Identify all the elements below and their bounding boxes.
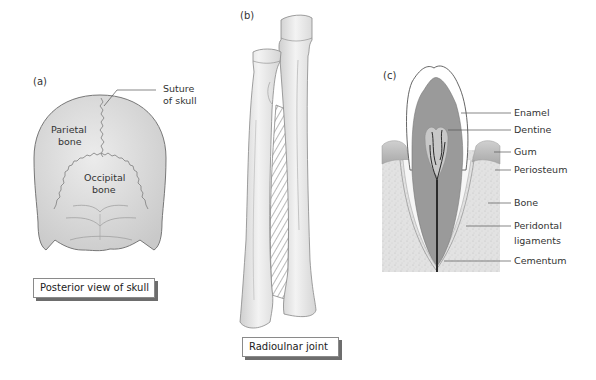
panel-radioulnar: (b) Radioulnar joint [200, 0, 370, 380]
panel-skull: (a) Suture of skull Parietal bone Occipi… [0, 0, 200, 310]
label-dentine: Dentine [514, 124, 551, 135]
label-cementum: Cementum [514, 255, 567, 266]
label-parietal-bone-2: bone [58, 136, 82, 147]
label-suture-of-skull-2: of skull [163, 95, 197, 106]
label-occipital-bone-1: Occipital [84, 172, 125, 183]
label-parietal-bone-1: Parietal [51, 124, 87, 135]
radius-ulna-illustration [200, 0, 370, 380]
label-gum: Gum [514, 146, 537, 157]
caption-posterior-view-of-skull: Posterior view of skull [33, 278, 155, 298]
label-peridontal-ligaments-1: Peridontal [514, 220, 562, 231]
label-enamel: Enamel [514, 107, 550, 118]
skull-illustration [0, 0, 200, 310]
panel-tooth: (c) [370, 0, 596, 300]
label-suture-of-skull-1: Suture [163, 83, 194, 94]
label-occipital-bone-2: bone [92, 184, 116, 195]
label-bone: Bone [514, 197, 538, 208]
caption-radioulnar-joint: Radioulnar joint [242, 337, 339, 357]
label-periosteum: Periosteum [514, 164, 567, 175]
label-peridontal-ligaments-2: ligaments [514, 235, 561, 246]
